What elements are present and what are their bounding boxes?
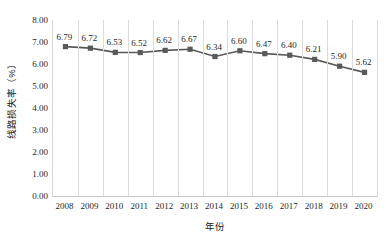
series-polyline	[65, 47, 364, 73]
y-axis-tick-label: 8.00	[32, 15, 48, 25]
y-axis-tick-label: 2.00	[32, 147, 48, 157]
data-point-marker	[163, 48, 168, 53]
data-point-marker	[337, 64, 342, 69]
x-axis-tick-label: 2014	[205, 201, 223, 211]
data-point-marker	[187, 47, 192, 52]
data-point-marker	[362, 70, 367, 75]
x-axis-tick-label: 2011	[130, 201, 148, 211]
x-axis-tick-label: 2009	[80, 201, 98, 211]
x-axis-tick-label: 2012	[155, 201, 173, 211]
vertical-gridline	[302, 20, 303, 196]
series-line	[53, 20, 377, 196]
data-point-marker	[88, 46, 93, 51]
plot-area: 6.796.726.536.526.626.676.346.606.476.40…	[52, 20, 378, 197]
vertical-gridline	[227, 20, 228, 196]
data-point-marker	[138, 50, 143, 55]
vertical-gridline	[153, 20, 154, 196]
vertical-gridline	[352, 20, 353, 196]
vertical-gridline	[103, 20, 104, 196]
y-axis-tick-label: 1.00	[32, 169, 48, 179]
y-axis-tick-label: 4.00	[32, 103, 48, 113]
vertical-gridline	[203, 20, 204, 196]
x-axis-tick-label: 2020	[355, 201, 373, 211]
data-point-marker	[287, 53, 292, 58]
y-axis-tick-label: 5.00	[32, 81, 48, 91]
y-axis-title-label: 线路损失率（%）	[4, 58, 18, 138]
y-axis-tick-label: 6.00	[32, 59, 48, 69]
x-axis-tick-label: 2019	[330, 201, 348, 211]
vertical-gridline	[128, 20, 129, 196]
x-axis-tick-label: 2018	[305, 201, 323, 211]
y-axis-title: 线路损失率（%）	[2, 0, 20, 197]
data-point-marker	[113, 50, 118, 55]
line-chart: 线路损失率（%） 0.001.002.003.004.005.006.007.0…	[0, 0, 389, 245]
x-axis-tick-label: 2015	[230, 201, 248, 211]
vertical-gridline	[327, 20, 328, 196]
vertical-gridline	[252, 20, 253, 196]
x-axis-tick-label: 2016	[255, 201, 273, 211]
data-point-marker	[237, 48, 242, 53]
vertical-gridline	[277, 20, 278, 196]
y-axis-tick-label: 3.00	[32, 125, 48, 135]
data-point-marker	[312, 57, 317, 62]
x-axis-title: 年份	[52, 219, 378, 233]
x-axis-tick-label: 2010	[105, 201, 123, 211]
x-axis-tick-label: 2013	[180, 201, 198, 211]
x-axis-tick-label: 2017	[280, 201, 298, 211]
data-point-marker	[63, 44, 68, 49]
y-axis-tick-label: 0.00	[32, 191, 48, 201]
vertical-gridline	[78, 20, 79, 196]
data-point-marker	[212, 54, 217, 59]
x-axis-tick-label: 2008	[55, 201, 73, 211]
y-axis-tick-labels: 0.001.002.003.004.005.006.007.008.00	[20, 20, 50, 197]
data-point-marker	[262, 51, 267, 56]
y-axis-tick-label: 7.00	[32, 37, 48, 47]
vertical-gridline	[178, 20, 179, 196]
x-axis-tick-labels: 2008200920102011201220132014201520162017…	[52, 199, 378, 217]
